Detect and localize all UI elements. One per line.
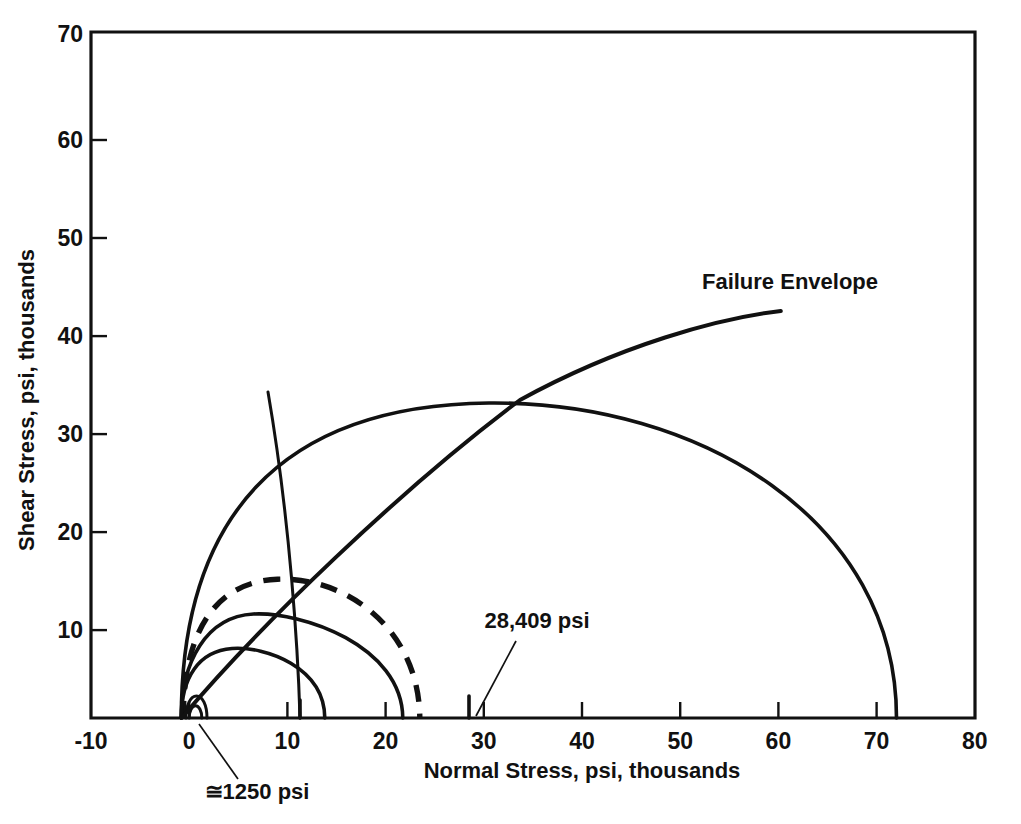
- y-tick-label: 50: [57, 225, 83, 251]
- annotation-28409: 28,409 psi: [476, 608, 590, 716]
- mohr-circle-figure: 10 20 30 40 50 60 70 -10 0 10 20 30 40 5…: [0, 0, 1021, 824]
- x-tick-label: 70: [864, 728, 890, 754]
- x-tick-label: 30: [471, 728, 497, 754]
- y-tick-label: 10: [57, 617, 83, 643]
- y-tick-label: 20: [57, 519, 83, 545]
- x-tick-label: 50: [667, 728, 693, 754]
- y-tick-label: 70: [57, 21, 83, 47]
- y-tick-label: 40: [57, 323, 83, 349]
- y-tick-label: 30: [57, 421, 83, 447]
- pressure-28409-label: 28,409 psi: [484, 608, 589, 633]
- y-tick-labels: 10 20 30 40 50 60 70: [57, 21, 83, 643]
- x-axis-title: Normal Stress, psi, thousands: [424, 758, 741, 783]
- y-tick-label: 60: [57, 127, 83, 153]
- failure-envelope-label: Failure Envelope: [702, 269, 878, 294]
- failure-envelope-curve: [182, 311, 781, 718]
- pressure-1250-leader: [199, 724, 238, 779]
- mohr-circles-group: [181, 392, 896, 718]
- x-axis-ticks: [189, 702, 876, 718]
- mohr-circle-dashed-28409: [183, 579, 419, 718]
- mohr-chord-line: [268, 392, 300, 718]
- y-axis-ticks: [91, 140, 107, 630]
- x-tick-label: 40: [569, 728, 595, 754]
- mohr-circle-2: [181, 648, 324, 718]
- x-tick-label: 0: [183, 728, 196, 754]
- pressure-1250-label: ≅1250 psi: [205, 779, 310, 804]
- x-tick-label: 20: [373, 728, 399, 754]
- pressure-28409-leader: [476, 641, 516, 716]
- x-tick-label: -10: [74, 728, 107, 754]
- chart-canvas: 10 20 30 40 50 60 70 -10 0 10 20 30 40 5…: [0, 0, 1021, 824]
- x-tick-label: 60: [766, 728, 792, 754]
- annotation-failure-envelope: Failure Envelope: [702, 269, 878, 294]
- y-axis-title: Shear Stress, psi, thousands: [14, 249, 39, 551]
- x-tick-label: 80: [962, 728, 988, 754]
- x-tick-label: 10: [275, 728, 301, 754]
